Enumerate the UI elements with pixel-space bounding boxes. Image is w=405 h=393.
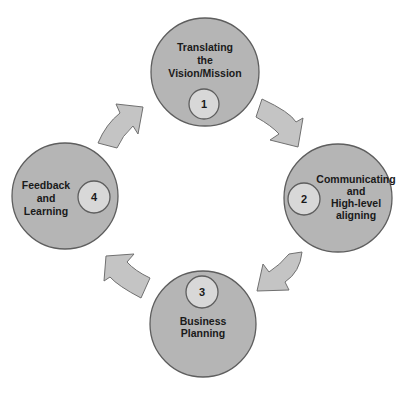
step-3-label-line-2: Planning: [181, 327, 225, 339]
step-2-label-line-2: and: [347, 185, 366, 197]
step-2-label-line-3: High-level: [331, 197, 381, 209]
step-4-label-line-3: Learning: [24, 205, 68, 217]
cycle-diagram: Translating the Vision/Mission 1 2 Commu…: [0, 0, 405, 393]
step-3-node: 3 Business Planning: [150, 271, 256, 377]
step-3-label-line-1: Business: [180, 315, 227, 327]
step-2-label-line-4: aligning: [336, 209, 376, 221]
step-4-label-line-1: Feedback: [22, 179, 71, 191]
arrow-4-to-1: [98, 104, 143, 148]
step-1-number: 1: [201, 98, 207, 110]
step-2-number: 2: [301, 193, 307, 205]
step-1-label-line-3: Vision/Mission: [168, 67, 241, 79]
step-1-label-line-1: Translating: [177, 41, 233, 53]
step-4-number: 4: [91, 191, 98, 203]
step-2-label-line-1: Communicating: [316, 173, 395, 185]
step-2-node: 2 Communicating and High-level aligning: [284, 144, 396, 252]
arrow-3-to-4: [104, 254, 150, 298]
step-4-node: Feedback and Learning 4: [12, 143, 118, 249]
arrow-2-to-3: [257, 252, 302, 291]
step-1-label-line-2: the: [197, 54, 213, 66]
step-1-node: Translating the Vision/Mission 1: [151, 18, 259, 126]
arrow-1-to-2: [256, 99, 303, 147]
step-3-number: 3: [199, 286, 205, 298]
step-4-label-line-2: and: [37, 192, 56, 204]
